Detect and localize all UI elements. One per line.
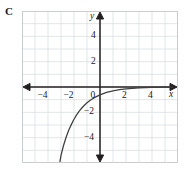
y-tick-neg4: −4 [84, 133, 94, 143]
x-tick-4: 4 [148, 91, 153, 101]
x-tick-0: 0 [91, 91, 96, 101]
curve-exponential [22, 11, 178, 163]
x-axis-label: x [169, 90, 173, 100]
figure-root: C −4−202442−2−4 x y [0, 0, 190, 172]
y-tick-neg2: −2 [84, 107, 94, 117]
x-tick-2: 2 [122, 91, 127, 101]
x-tick-neg2: −2 [64, 91, 74, 101]
y-tick-4: 4 [91, 31, 96, 41]
coordinate-plane: −4−202442−2−4 x y [22, 11, 178, 163]
y-tick-2: 2 [91, 57, 96, 67]
y-axis-label: y [90, 12, 94, 22]
panel-label: C [5, 6, 13, 17]
x-tick-neg4: −4 [38, 91, 48, 101]
